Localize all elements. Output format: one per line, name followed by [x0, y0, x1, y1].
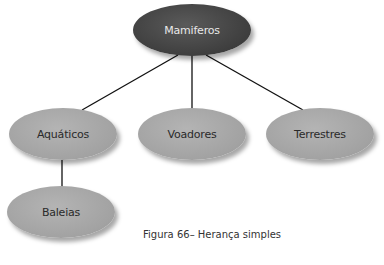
- node-aquaticos: Aquáticos: [9, 108, 117, 160]
- node-mamiferos: Mamiferos: [133, 4, 251, 56]
- node-label: Voadores: [167, 128, 216, 141]
- figure-caption: Figura 66– Herança simples: [143, 229, 281, 240]
- node-label: Terrestres: [294, 128, 346, 141]
- edge-mamiferos-aquaticos: [82, 55, 178, 110]
- node-label: Aquáticos: [37, 128, 89, 141]
- node-baleias: Baleias: [7, 186, 115, 238]
- node-terrestres: Terrestres: [266, 108, 374, 160]
- edge-mamiferos-terrestres: [206, 55, 303, 110]
- node-label: Mamiferos: [164, 24, 220, 37]
- node-label: Baleias: [42, 206, 80, 219]
- node-voadores: Voadores: [138, 108, 246, 160]
